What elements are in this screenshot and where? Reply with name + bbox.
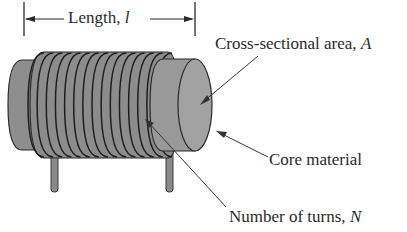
length-label-text: Length,: [68, 8, 125, 27]
area-symbol: A: [361, 34, 371, 53]
core-right-end: [150, 59, 212, 151]
length-label: Length, l: [68, 8, 129, 28]
turns-symbol: N: [350, 207, 361, 226]
area-label: Cross-sectional area, A: [215, 34, 371, 54]
turns-label: Number of turns, N: [229, 207, 361, 227]
core-arrow-head: [216, 131, 227, 138]
turns-label-text: Number of turns,: [229, 207, 350, 226]
core-label-text: Core material: [269, 150, 362, 169]
core-label: Core material: [269, 150, 362, 170]
area-label-text: Cross-sectional area,: [215, 34, 361, 53]
length-symbol: l: [125, 8, 130, 27]
cross-section-face: [178, 59, 212, 151]
